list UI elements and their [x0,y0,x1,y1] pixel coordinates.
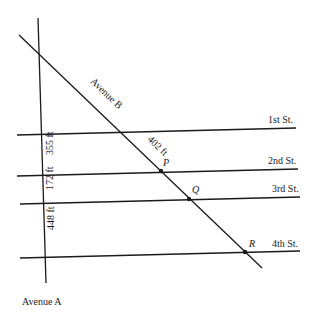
point-r-label: R [248,238,255,249]
street-1st-st-line [17,128,296,135]
diagram-svg: Avenue AAvenue B1st St.2nd St.3rd St.4th… [0,0,314,318]
avenue-a-label: Avenue A [22,296,62,307]
street-3rd-st-line [20,197,300,204]
street-4th-st-line [20,251,300,258]
point-q-dot [187,197,191,201]
point-q-label: Q [192,184,200,195]
measurement-448-ft: 448 ft [45,206,56,230]
measurement-355-ft: 355 ft [44,131,55,155]
point-r-dot [243,250,247,254]
point-p-dot [159,169,163,173]
measurement-172-ft: 172 ft [44,166,55,190]
street-3rd-st-label: 3rd St. [272,183,299,194]
measurement-402-ft: 402 ft [146,134,171,158]
avenue-b-label: Avenue B [89,76,125,112]
avenue-b-line [19,35,262,268]
point-p-label: P [162,157,169,168]
street-2nd-st-line [17,169,298,176]
street-map-diagram: Avenue AAvenue B1st St.2nd St.3rd St.4th… [0,0,314,318]
street-4th-st-label: 4th St. [272,238,298,249]
street-2nd-st-label: 2nd St. [268,155,296,166]
street-1st-st-label: 1st St. [268,114,293,125]
